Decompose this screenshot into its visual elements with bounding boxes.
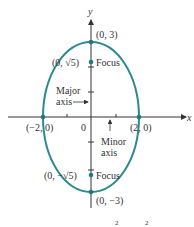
bottom-vertex-label: (0, −3) bbox=[96, 195, 123, 207]
x-axis-label: x bbox=[186, 112, 192, 123]
right-vertex-point bbox=[137, 115, 142, 120]
caption-exponent-1: 2 bbox=[115, 219, 119, 227]
top-vertex-point bbox=[89, 40, 94, 45]
left-vertex-point bbox=[41, 115, 46, 120]
top-vertex-label: (0, 3) bbox=[96, 29, 118, 41]
top-focus-point bbox=[89, 60, 94, 65]
left-vertex-label: (−2, 0) bbox=[26, 122, 53, 134]
top-focus-tag: Focus bbox=[96, 57, 120, 68]
ellipse-diagram: x y (0, 3) (0, √5) Focus (−2, 0) 0 (2, 0… bbox=[0, 0, 194, 227]
bottom-focus-label: (0, −√5) bbox=[44, 170, 77, 182]
origin-label: 0 bbox=[81, 122, 86, 133]
bottom-vertex-point bbox=[89, 190, 94, 195]
top-focus-label: (0, √5) bbox=[52, 57, 79, 69]
y-axis-label: y bbox=[87, 6, 93, 17]
caption-exponent-2: 2 bbox=[145, 219, 149, 227]
major-axis-label-line2: axis bbox=[56, 96, 72, 107]
right-vertex-label: (2, 0) bbox=[130, 122, 152, 134]
major-axis-label-line1: Major bbox=[56, 85, 81, 96]
minor-axis-label-line2: axis bbox=[101, 147, 117, 158]
bottom-focus-point bbox=[89, 173, 94, 178]
bottom-focus-tag: Focus bbox=[96, 170, 120, 181]
minor-axis-label-line1: Minor bbox=[101, 136, 127, 147]
